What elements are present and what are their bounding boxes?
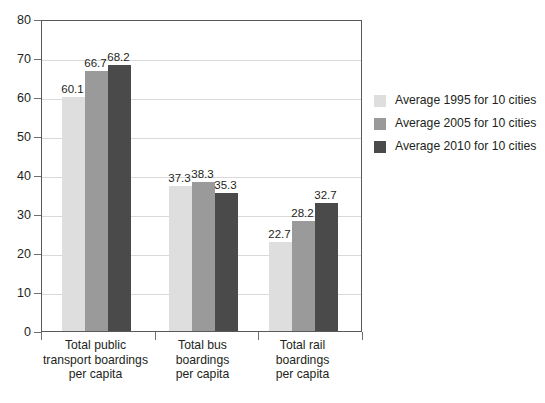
bar xyxy=(108,65,131,331)
legend-item: Average 2010 for 10 cities xyxy=(374,135,542,158)
y-axis-tick-mark xyxy=(34,59,41,60)
bar-value-label: 28.2 xyxy=(287,208,318,220)
bar xyxy=(169,186,192,331)
legend-label: Average 1995 for 10 cities xyxy=(395,94,536,107)
bar-value-label: 35.3 xyxy=(210,180,241,192)
y-axis-tick-label: 50 xyxy=(3,131,31,144)
legend-label: Average 2010 for 10 cities xyxy=(395,140,536,153)
y-axis-tick-label: 80 xyxy=(3,14,31,27)
y-axis-tick-mark xyxy=(34,254,41,255)
y-axis-tick-label: 70 xyxy=(3,53,31,66)
y-axis-tick-label: 0 xyxy=(3,326,31,339)
x-axis-tick-mark xyxy=(362,332,363,340)
legend-swatch-icon xyxy=(374,118,386,130)
legend-swatch-icon xyxy=(374,141,386,153)
bar xyxy=(269,242,292,331)
legend-item: Average 2005 for 10 cities xyxy=(374,112,542,135)
bar-chart: 01020304050607080 60.166.768.237.338.335… xyxy=(0,0,545,403)
bar-value-label: 60.1 xyxy=(57,84,88,96)
y-axis-tick-mark xyxy=(34,293,41,294)
bar xyxy=(85,71,108,331)
bar xyxy=(215,193,238,331)
bar-value-label: 32.7 xyxy=(310,190,341,202)
y-axis-tick-mark xyxy=(34,176,41,177)
bar xyxy=(315,203,338,331)
bar-value-label: 68.2 xyxy=(103,52,134,64)
y-axis-tick-label: 10 xyxy=(3,287,31,300)
legend-label: Average 2005 for 10 cities xyxy=(395,117,536,130)
x-axis-tick-mark xyxy=(41,332,42,340)
bar xyxy=(62,97,85,331)
y-axis-tick-label: 30 xyxy=(3,209,31,222)
y-axis-tick-mark xyxy=(34,215,41,216)
x-axis-tick-mark xyxy=(258,332,259,340)
legend-swatch-icon xyxy=(374,95,386,107)
y-axis-tick-mark xyxy=(34,20,41,21)
legend: Average 1995 for 10 citiesAverage 2005 f… xyxy=(374,89,542,158)
x-axis-category-label: Total rail boardings per capita xyxy=(238,338,368,382)
y-axis-tick-mark xyxy=(34,332,41,333)
y-axis-tick-label: 60 xyxy=(3,92,31,105)
y-axis-tick-label: 20 xyxy=(3,248,31,261)
y-axis-tick-mark xyxy=(34,137,41,138)
bar-value-label: 22.7 xyxy=(264,229,295,241)
legend-item: Average 1995 for 10 cities xyxy=(374,89,542,112)
y-axis-tick-mark xyxy=(34,98,41,99)
bar xyxy=(292,221,315,331)
x-axis-tick-mark xyxy=(155,332,156,340)
bar xyxy=(192,182,215,331)
y-axis-tick-label: 40 xyxy=(3,170,31,183)
cut-caption xyxy=(14,392,344,402)
